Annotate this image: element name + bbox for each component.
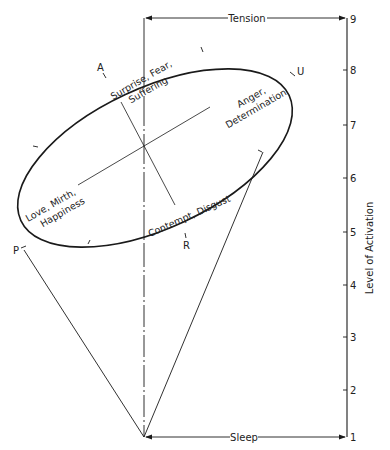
tick-label-9: 9: [350, 14, 356, 25]
activation-axis-title: Level of Activation: [364, 202, 375, 294]
label-contempt-disgust: Contempt, Disgust: [146, 193, 232, 239]
tick-label-4: 4: [350, 280, 356, 291]
tick-label-3: 3: [350, 332, 356, 343]
tick-label-5: 5: [350, 227, 356, 238]
point-label-A: A: [97, 62, 104, 73]
ellipse-tick-top: [201, 47, 203, 52]
tension-label: Tension: [227, 13, 265, 24]
cone-left-edge: [24, 250, 144, 437]
ellipse-tick-right: [258, 150, 262, 152]
cone-right-edge: [144, 152, 263, 437]
point-label-R: R: [183, 240, 190, 251]
svg-text:Contempt, Disgust: Contempt, Disgust: [146, 193, 232, 239]
ellipse-tick-R: [185, 233, 186, 238]
ellipse-tick-P: [21, 246, 26, 248]
label-love-mirth-happiness: Love, Mirth, Happiness: [24, 184, 87, 234]
ellipse-tick-bottom: [88, 240, 90, 244]
sleep-label: Sleep: [230, 432, 258, 443]
tick-label-1: 1: [350, 432, 356, 443]
tick-label-2: 2: [350, 385, 356, 396]
tick-label-7: 7: [350, 120, 356, 131]
activation-axis-ticks: [343, 70, 347, 390]
tick-label-6: 6: [350, 173, 356, 184]
minor-axis: [121, 102, 175, 205]
point-label-U: U: [297, 66, 304, 77]
emotion-cone-diagram: Tension Sleep 9 8 7 6 5 4 3 2 1 Level of…: [0, 0, 390, 450]
ellipse-tick-left: [33, 146, 38, 147]
ellipse-tick-A: [103, 73, 106, 78]
label-anger-determination: Anger, Determination: [218, 76, 289, 130]
point-label-P: P: [13, 245, 19, 256]
ellipse-tick-U: [290, 72, 295, 76]
tick-label-8: 8: [350, 65, 356, 76]
